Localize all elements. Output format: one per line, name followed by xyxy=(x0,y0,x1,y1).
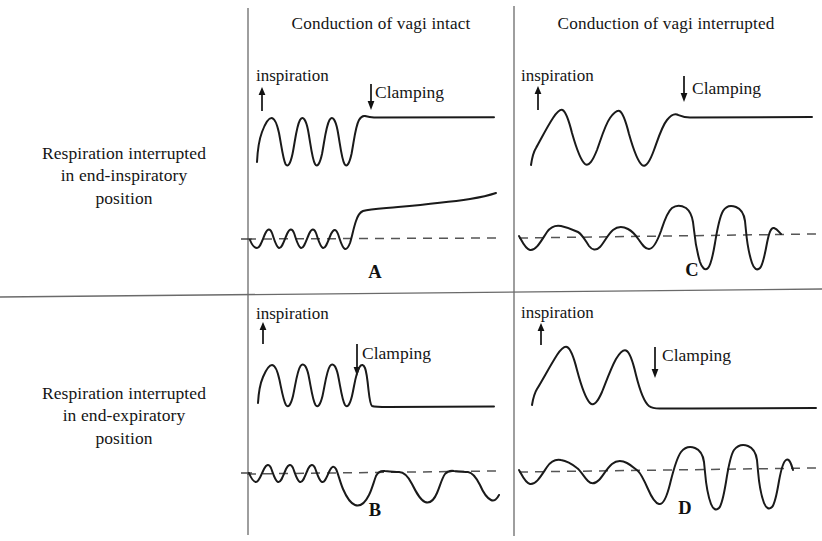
panel-d-lower xyxy=(0,0,822,541)
figure-canvas: Conduction of vagi intact Conduction of … xyxy=(0,0,822,541)
panel-d-lower-trace xyxy=(519,445,793,509)
panel-d-baseline-dashed xyxy=(519,468,816,472)
